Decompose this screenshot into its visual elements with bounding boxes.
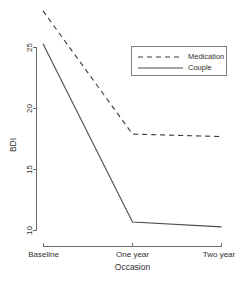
y-tick-label-20: 20 xyxy=(25,104,34,113)
y-axis: 25 20 15 10 BDI xyxy=(8,43,36,235)
legend-border xyxy=(132,47,227,76)
legend-label-medication: Medication xyxy=(188,52,224,61)
series-line-medication xyxy=(43,11,222,137)
x-tick-label-baseline: Baseline xyxy=(28,250,59,259)
y-tick-label-25: 25 xyxy=(25,43,34,52)
y-tick-label-15: 15 xyxy=(25,165,34,174)
series-group xyxy=(43,11,222,227)
bdi-line-chart: 25 20 15 10 BDI Baseline One year Two ye… xyxy=(0,0,245,281)
y-tick-label-10: 10 xyxy=(25,226,34,235)
chart-legend: Medication Couple xyxy=(132,47,227,76)
y-axis-title: BDI xyxy=(8,138,18,152)
x-axis-title: Occasion xyxy=(115,262,151,272)
chart-container: 25 20 15 10 BDI Baseline One year Two ye… xyxy=(0,0,245,281)
x-tick-label-two-year: Two year xyxy=(203,250,236,259)
x-axis: Baseline One year Two year Occasion xyxy=(28,243,235,272)
legend-label-couple: Couple xyxy=(188,63,212,72)
x-tick-label-one-year: One year xyxy=(116,250,149,259)
